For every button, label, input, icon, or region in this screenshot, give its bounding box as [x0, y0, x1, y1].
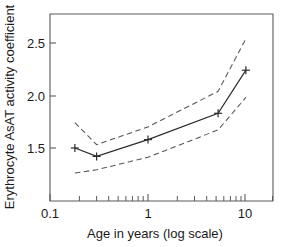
y-axis-tick-labels: 2.5 2.0 1.5 — [27, 36, 45, 156]
x-axis-minor-ticks — [79, 196, 272, 201]
data-point-markers — [71, 66, 250, 160]
data-point-marker — [71, 144, 79, 152]
data-point-marker — [242, 66, 250, 74]
y-tick-label-1-5: 1.5 — [27, 141, 45, 156]
data-point-marker — [93, 152, 101, 160]
line-chart-plot: 2.5 2.0 1.5 — [0, 0, 286, 247]
x-tick-label-1: 1 — [144, 206, 151, 221]
y-axis-title: Erythrocyte AsAT activity coefficient — [2, 4, 17, 209]
x-axis-title: Age in years (log scale) — [87, 226, 223, 241]
data-point-marker — [214, 109, 222, 117]
x-tick-label-10: 10 — [238, 206, 252, 221]
chart-figure: 2.5 2.0 1.5 — [0, 0, 286, 247]
y-tick-label-2-5: 2.5 — [27, 36, 45, 51]
x-axis-tick-labels: 0.1 1 10 — [41, 206, 252, 221]
plot-frame — [50, 14, 273, 201]
x-tick-label-0-1: 0.1 — [41, 206, 59, 221]
upper-confidence-line — [75, 39, 246, 145]
y-axis-ticks — [50, 43, 56, 148]
data-point-marker — [144, 136, 152, 144]
y-tick-label-2-0: 2.0 — [27, 89, 45, 104]
